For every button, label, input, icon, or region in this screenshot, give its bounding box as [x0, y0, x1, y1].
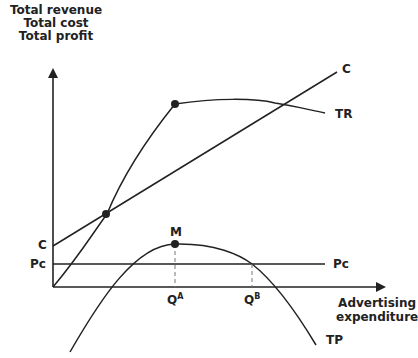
qa-tick-label: QA: [167, 294, 183, 307]
total-revenue-label: TR: [335, 108, 352, 121]
qb-tick-label: QB: [244, 294, 260, 307]
x-axis-label: Advertising expenditure: [336, 296, 418, 324]
cost-line-label: C: [342, 63, 351, 76]
tr-c-intersection-point: [102, 210, 110, 218]
cost-line: [53, 72, 337, 246]
y-axis-label: Total revenue Total cost Total profit: [6, 4, 106, 43]
total-profit-curve: [70, 244, 316, 352]
qa-base: Q: [167, 293, 177, 307]
max-profit-point: [171, 240, 179, 248]
total-revenue-curve: [53, 99, 325, 287]
pc-line-label: Pc: [333, 258, 349, 271]
pc-intercept-label: Pc: [30, 258, 46, 271]
total-profit-label: TP: [326, 334, 343, 347]
y-axis-label-line-3: Total profit: [6, 30, 106, 43]
max-profit-label: M: [170, 226, 182, 239]
c-intercept-label: C: [38, 239, 47, 252]
tr-kink-point: [171, 100, 179, 108]
x-axis-label-line-2: expenditure: [336, 310, 418, 324]
qb-base: Q: [244, 293, 254, 307]
x-axis-label-line-1: Advertising: [336, 296, 418, 310]
qb-superscript: B: [254, 292, 260, 301]
qa-superscript: A: [177, 292, 183, 301]
